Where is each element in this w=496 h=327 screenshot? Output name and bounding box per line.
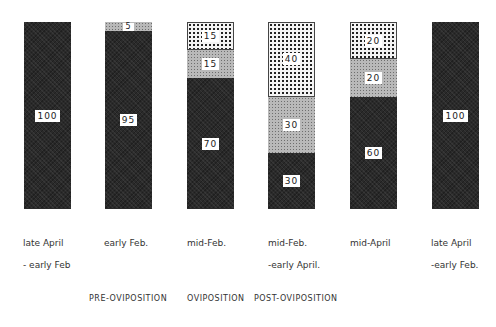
segment-value-label: 70	[202, 138, 219, 150]
stacked-bar: 151570	[187, 22, 234, 209]
segment-value-label: 100	[35, 110, 59, 122]
segment-value-label: 100	[443, 110, 467, 122]
bar-segment-medium: 5	[105, 22, 152, 31]
bar-segment-light: 20	[350, 22, 397, 59]
stacked-bar: 202060	[350, 22, 397, 209]
bar-segment-dark: 100	[24, 22, 71, 209]
segment-value-label: 30	[283, 119, 300, 131]
x-axis-label: mid-Feb.	[187, 232, 226, 254]
x-axis-label: mid-Feb.	[268, 232, 307, 254]
x-axis-label: late April	[23, 232, 64, 254]
x-axis-label-line2: -early April.	[268, 254, 320, 276]
x-axis-label: mid-April	[350, 232, 391, 254]
bar-segment-medium: 30	[268, 97, 315, 153]
x-axis-label-line2: - early Feb	[23, 254, 70, 276]
bar-segment-light: 40	[268, 22, 315, 97]
bar-segment-light: 15	[187, 22, 234, 50]
bar-segment-dark: 100	[432, 22, 479, 209]
stacked-bar: 403030	[268, 22, 315, 209]
phase-label-post-oviposition: POST-OVIPOSITION	[254, 294, 338, 303]
bar-segment-dark: 60	[350, 97, 397, 209]
bar-segment-medium: 15	[187, 50, 234, 78]
x-axis-label-line2: -early Feb.	[431, 254, 478, 276]
segment-value-label: 30	[283, 175, 300, 187]
bar-segment-dark: 30	[268, 153, 315, 209]
stacked-bar: 100	[24, 22, 71, 209]
stacked-bar: 595	[105, 22, 152, 209]
segment-value-label: 20	[365, 72, 382, 84]
segment-value-label: 5	[123, 23, 133, 31]
segment-value-label: 20	[365, 35, 382, 47]
bar-segment-dark: 95	[105, 31, 152, 209]
stacked-bar: 100	[432, 22, 479, 209]
x-axis-label: early Feb.	[104, 232, 148, 254]
segment-value-label: 40	[283, 53, 300, 65]
phase-label-pre-oviposition: PRE-OVIPOSITION	[89, 294, 167, 303]
bar-segment-medium: 20	[350, 59, 397, 96]
bar-segment-dark: 70	[187, 78, 234, 209]
segment-value-label: 60	[365, 147, 382, 159]
segment-value-label: 15	[202, 30, 219, 42]
segment-value-label: 15	[202, 58, 219, 70]
segment-value-label: 95	[120, 114, 137, 126]
phase-label-oviposition: OVIPOSITION	[187, 294, 245, 303]
x-axis-label: late April	[431, 232, 472, 254]
